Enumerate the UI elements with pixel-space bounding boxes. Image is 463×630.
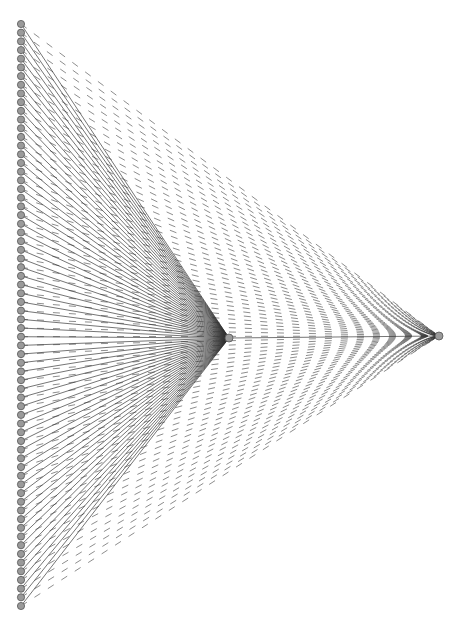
dashed-edge (21, 336, 439, 519)
dashed-edge (21, 172, 439, 336)
solid-edge (21, 198, 229, 338)
solid-edge (21, 338, 229, 441)
solid-edge (21, 337, 229, 338)
leaf-node (17, 20, 24, 27)
leaf-node (17, 264, 24, 271)
leaf-node (17, 576, 24, 583)
leaf-node (17, 333, 24, 340)
dashed-edge (21, 336, 439, 476)
leaf-node (17, 90, 24, 97)
solid-edge (21, 172, 229, 338)
leaf-node (17, 472, 24, 479)
leaf-node (17, 272, 24, 279)
leaf-node (17, 81, 24, 88)
dashed-edge (21, 215, 439, 336)
solid-edge (21, 224, 229, 338)
leaf-node (17, 481, 24, 488)
leaf-node (17, 177, 24, 184)
solid-edge (21, 338, 229, 580)
solid-edge (21, 59, 229, 338)
leaf-node (17, 437, 24, 444)
middle-hub-node (225, 334, 233, 342)
leaf-node (17, 298, 24, 305)
leaf-node (17, 403, 24, 410)
leaf-node (17, 116, 24, 123)
dashed-edge (21, 206, 439, 336)
leaf-node (17, 585, 24, 592)
solid-edge (21, 338, 229, 467)
dashed-edge (21, 293, 439, 336)
dashed-edge (21, 336, 439, 493)
dashed-edge (21, 336, 439, 450)
leaf-node (17, 359, 24, 366)
dashed-edge (21, 24, 439, 336)
solid-edge (21, 338, 229, 484)
leaf-node (17, 220, 24, 227)
dashed-edge (21, 336, 439, 554)
leaf-node (17, 455, 24, 462)
leaf-node (17, 550, 24, 557)
leaf-node (17, 55, 24, 62)
dashed-edge (21, 267, 439, 336)
leaf-node (17, 238, 24, 245)
solid-edge (21, 180, 229, 338)
leaf-node (17, 307, 24, 314)
dashed-edge (21, 276, 439, 336)
dashed-edge (21, 189, 439, 336)
dashed-edge (21, 128, 439, 336)
leaf-node (17, 420, 24, 427)
leaf-node (17, 498, 24, 505)
leaf-node (17, 446, 24, 453)
leaf-node (17, 290, 24, 297)
leaf-node (17, 133, 24, 140)
solid-edge (21, 338, 229, 432)
solid-edge (21, 328, 229, 338)
solid-edge (21, 154, 229, 338)
leaf-node (17, 602, 24, 609)
leaf-node (17, 246, 24, 253)
dashed-edge (21, 336, 439, 441)
leaf-node (17, 212, 24, 219)
leaf-node (17, 316, 24, 323)
leaf-node (17, 151, 24, 158)
leaf-node (17, 194, 24, 201)
dashed-edge (21, 336, 439, 528)
leaf-node (17, 394, 24, 401)
solid-edge (21, 338, 229, 510)
leaf-node (17, 73, 24, 80)
leaf-node (17, 594, 24, 601)
leaf-node (17, 229, 24, 236)
dashed-edge (21, 67, 439, 336)
leaf-node (17, 107, 24, 114)
solid-edge (21, 338, 229, 554)
leaf-node (17, 64, 24, 71)
leaf-node (17, 99, 24, 106)
leaf-node (17, 568, 24, 575)
solid-edge (21, 338, 229, 606)
dashed-edge (21, 198, 439, 336)
solid-edge (21, 338, 229, 458)
leaf-node (17, 542, 24, 549)
network-diagram (0, 0, 463, 630)
leaf-node (17, 168, 24, 175)
solid-edge (21, 338, 229, 493)
solid-edge (21, 76, 229, 338)
leaf-node (17, 255, 24, 262)
leaf-node (17, 385, 24, 392)
leaf-node (17, 29, 24, 36)
solid-edge (21, 241, 229, 338)
dashed-edge (21, 93, 439, 336)
solid-edge (21, 338, 229, 589)
dashed-edge (21, 336, 439, 432)
leaf-node (17, 411, 24, 418)
dashed-edge (21, 154, 439, 336)
leaf-node (17, 281, 24, 288)
leaf-node (17, 368, 24, 375)
leaf-node (17, 324, 24, 331)
leaf-node (17, 559, 24, 566)
leaf-node (17, 185, 24, 192)
dashed-edge (21, 85, 439, 336)
dashed-edge (21, 232, 439, 336)
leaf-node (17, 429, 24, 436)
leaf-node (17, 533, 24, 540)
